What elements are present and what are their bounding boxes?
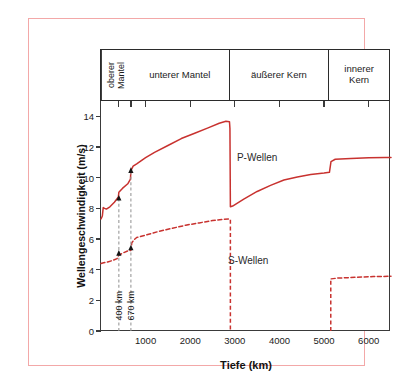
layer-label: unterer Mantel [149,70,210,81]
x-tick-mark-3 [279,101,280,107]
curve-s-wellen-seg1 [331,276,391,279]
series-label-s-wellen: S-Wellen [228,255,268,266]
annotation-arrowhead-boundary-670-0 [128,245,133,251]
y-tick-mark-4 [96,208,101,209]
series-label-p-wellen: P-Wellen [237,152,277,163]
x-tick-label-2: 3000 [224,335,245,346]
curve-s-wellen-seg0 [101,219,230,263]
y-tick-mark-5 [96,177,101,178]
y-tick-mark-0 [96,330,101,331]
layer-cell-3: innerer Kern [329,50,389,100]
curve-p-wellen-seg0 [101,121,391,219]
layer-cell-0: oberer Mantel [101,50,131,100]
y-tick-label-7: 14 [74,111,94,122]
curves-svg [101,101,391,331]
x-tick-mark-0 [145,101,146,107]
y-tick-mark-6 [96,146,101,147]
figure-border: oberer Mantelunterer Manteläußerer Kerni… [28,18,365,366]
layer-cell-2: äußerer Kern [230,50,330,100]
x-tick-mark-2 [234,101,235,107]
x-tick-mark-1 [190,101,191,107]
x-tick-label-3: 4000 [269,335,290,346]
x-tick-mark-5 [368,101,369,107]
x-axis-title: Tiefe (km) [220,359,272,371]
y-axis-title: Wellengeschwindigkeit (m/s) [75,144,87,287]
layer-cell-1: unterer Mantel [131,50,230,100]
y-tick-mark-3 [96,238,101,239]
plot-area: 02468101214100020003000400050006000Tiefe… [100,101,390,331]
x-tick-label-4: 5000 [313,335,334,346]
annotation-arrowhead-boundary-400-0 [116,250,121,256]
layer-label: innerer Kern [344,64,374,86]
y-tick-label-1: 2 [74,295,94,306]
x-tick-mark-4 [323,101,324,107]
x-tick-label-5: 6000 [358,335,379,346]
y-tick-mark-7 [96,116,101,117]
x-tick-label-0: 1000 [135,335,156,346]
annotation-label-boundary-670: 670 km [126,291,136,321]
layer-label: oberer Mantel [106,62,127,89]
y-tick-label-0: 0 [74,326,94,337]
y-tick-mark-1 [96,300,101,301]
annotation-label-boundary-400: 400 km [114,291,124,321]
x-minor-tick-boundary-670 [130,101,131,107]
x-minor-tick-boundary-400 [118,101,119,107]
x-tick-label-1: 2000 [180,335,201,346]
layer-header: oberer Mantelunterer Manteläußerer Kerni… [100,49,390,101]
y-tick-mark-2 [96,269,101,270]
layer-label: äußerer Kern [251,70,307,81]
